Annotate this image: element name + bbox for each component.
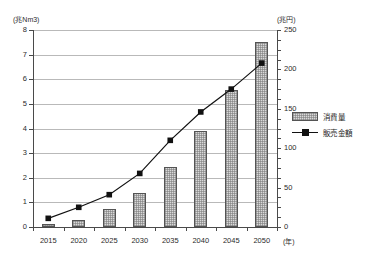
y-axis-left-tick-label: 7 [13,51,27,59]
left-axis-unit-label: (兆Nm3) [13,16,39,23]
y-axis-right-line [277,30,278,228]
legend-label-consumption: 消費量 [323,111,345,122]
x-axis-tick-label: 2050 [247,237,277,245]
legend-label-sales: 販売金額 [323,127,352,138]
y-axis-left-line [33,30,34,228]
x-axis-tick-label: 2030 [125,237,155,245]
line-marker [76,205,82,211]
y-axis-left-tick-label: 5 [13,100,27,108]
y-axis-right-tick-label: 200 [284,65,302,73]
x-axis-tick-label: 2035 [155,237,185,245]
x-axis-tick-label: 2015 [33,237,63,245]
line-marker [228,86,234,92]
y-axis-left-tick-label: 3 [13,149,27,157]
y-axis-right-tick-label: 100 [284,144,302,152]
y-axis-left-tick-label: 8 [13,26,27,34]
y-axis-left-tick-label: 4 [13,125,27,133]
y-axis-left-tick-label: 6 [13,75,27,83]
x-axis-tick-label: 2020 [64,237,94,245]
line-marker [45,216,51,222]
x-axis-unit-label: (年) [283,238,295,245]
right-axis-unit-label: (兆円) [277,16,296,23]
y-axis-right-tick-label: 50 [284,184,302,192]
y-axis-right-tick-label: 0 [284,223,302,231]
line-marker [198,109,204,115]
line-marker [167,138,173,144]
line-marker-icon [292,128,318,137]
x-axis-line [33,227,278,228]
line-marker [137,171,143,177]
line-marker [259,60,265,66]
line-marker [106,192,112,198]
bar-swatch-icon [292,112,318,121]
x-axis-tick-label: 2045 [216,237,246,245]
x-axis-tick-label: 2040 [186,237,216,245]
y-axis-left-tick-label: 0 [13,223,27,231]
legend-item-consumption: 消費量 [292,108,372,124]
x-axis-tick-label: 2025 [94,237,124,245]
y-axis-left-tick-label: 1 [13,198,27,206]
plot-area [33,30,277,227]
chart-legend: 消費量 販売金額 [292,108,372,140]
legend-item-sales: 販売金額 [292,124,372,140]
line-series-sales [33,30,277,227]
y-axis-right-tick-label: 250 [284,26,302,34]
chart-container: (兆Nm3) (兆円) (年) 012345678 05010015020025… [0,0,375,264]
y-axis-left-tick-label: 2 [13,174,27,182]
